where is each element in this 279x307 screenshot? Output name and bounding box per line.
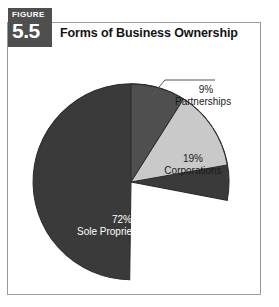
figure-number-badge: FIGURE 5.5 <box>8 8 52 47</box>
figure-badge-number: 5.5 <box>8 20 52 42</box>
pie-chart-svg <box>7 22 261 295</box>
figure-container: FIGURE 5.5 Forms of Business Ownership 7… <box>0 0 279 307</box>
pie-chart: 72% Sole Proprietorships 19% Corporation… <box>7 22 261 295</box>
